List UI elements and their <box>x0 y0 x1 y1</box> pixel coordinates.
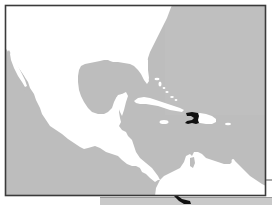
land-puerto-rico <box>225 123 231 125</box>
land-jamaica <box>160 120 169 124</box>
map-figure: Caribbean region map with Haiti highligh… <box>0 0 272 205</box>
atlantic-ocean <box>165 5 266 115</box>
below-frame-panel-edge <box>100 197 272 198</box>
map-canvas <box>0 0 272 205</box>
